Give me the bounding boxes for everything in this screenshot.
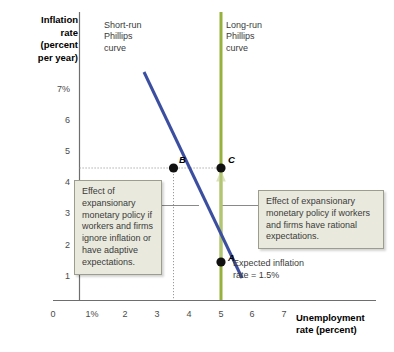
data-point-a [216,257,225,266]
data-point-c [216,163,225,172]
y-tick-label-6: 6 [44,115,70,125]
x-axis-title: Unemployment rate (percent) [296,312,390,336]
y-tick-label-5: 5 [44,146,70,156]
y-tick-label-1: 1 [44,271,70,281]
y-tick-label-7: 7% [44,84,70,94]
callout-adaptive-expectations: Effect of expansionary monetary policy i… [74,180,162,275]
x-tick-label-3: 3 [145,309,169,319]
y-axis-title: Inflation rate (percent per year) [4,14,78,64]
point-label-c: C [228,154,235,165]
phillips-curve-figure: Inflation rate (percent per year) Unempl… [0,0,394,352]
expected-inflation-note: Expected inflation rate = 1.5% [233,258,383,281]
callout-rational-expectations: Effect of expansionary monetary policy i… [258,190,384,249]
x-tick-label-5: 5 [209,309,233,319]
policy-movement-arrow [216,170,226,258]
x-tick-label-7: 7 [272,309,296,319]
y-tick-label-4: 4 [44,177,70,187]
short-run-curve-label: Short-run Phillips curve [104,20,142,54]
y-tick-label-3: 3 [44,208,70,218]
x-tick-label-4: 4 [177,309,201,319]
data-point-b [169,163,178,172]
point-label-b: B [179,154,186,165]
x-tick-label-1: 1% [80,309,104,319]
long-run-curve-label: Long-run Phillips curve [226,20,262,54]
x-tick-label-2: 2 [113,309,137,319]
y-tick-label-2: 2 [44,240,70,250]
x-tick-label-6: 6 [240,309,264,319]
x-tick-label-0: 0 [41,309,65,319]
